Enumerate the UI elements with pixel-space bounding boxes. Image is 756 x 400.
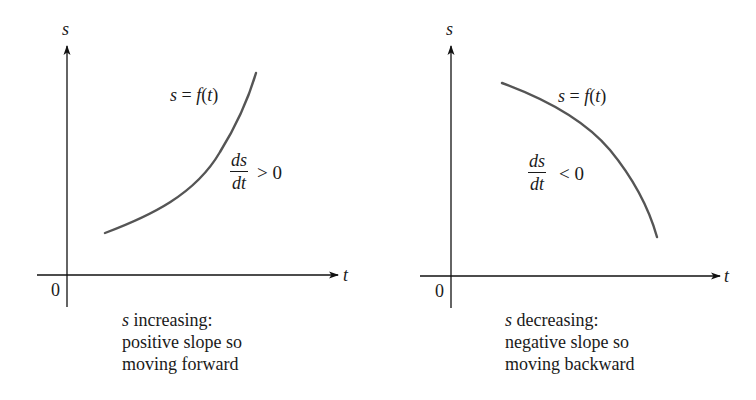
function-label-var: s — [558, 86, 565, 106]
derivative-fraction: ds dt — [230, 151, 248, 192]
caption-line-1: s increasing: — [122, 309, 242, 331]
function-label-eq: = — [177, 85, 196, 105]
caption-line-2: negative slope so — [505, 331, 634, 353]
derivative-denominator: dt — [530, 173, 544, 193]
derivative-numerator: ds — [528, 152, 546, 173]
function-label: s = f(t) — [170, 86, 218, 104]
function-label-var: s — [170, 85, 177, 105]
caption-var: s — [122, 310, 129, 330]
y-axis-label: s — [62, 20, 69, 38]
panel-decreasing: s t 0 s = f(t) ds dt < 0 s decreasing: n… — [378, 0, 756, 400]
caption-line-1-text: decreasing: — [512, 310, 598, 330]
x-axis-label: t — [343, 266, 348, 284]
origin-label: 0 — [51, 281, 60, 299]
caption-line-2: positive slope so — [122, 331, 242, 353]
caption-var: s — [505, 310, 512, 330]
caption-decreasing: s decreasing: negative slope so moving b… — [505, 309, 634, 375]
derivative-numerator: ds — [230, 151, 248, 172]
caption-line-3: moving forward — [122, 353, 242, 375]
caption-line-1-text: increasing: — [129, 310, 212, 330]
derivative-fraction: ds dt — [528, 152, 546, 193]
y-axis-label: s — [446, 20, 453, 38]
x-axis-label: t — [724, 267, 729, 285]
function-label-eq: = — [565, 86, 584, 106]
derivative-denominator: dt — [232, 172, 246, 192]
derivative-relation: < 0 — [559, 164, 584, 183]
caption-increasing: s increasing: positive slope so moving f… — [122, 309, 242, 375]
caption-line-3: moving backward — [505, 353, 634, 375]
derivative-relation: > 0 — [257, 163, 282, 182]
function-label: s = f(t) — [558, 87, 606, 105]
curve-decreasing — [502, 83, 657, 237]
origin-label: 0 — [435, 282, 444, 300]
caption-line-1: s decreasing: — [505, 309, 634, 331]
function-label-paren-close: ) — [600, 86, 606, 106]
panel-increasing: s t 0 s = f(t) ds dt > 0 s increasing: p… — [0, 0, 378, 400]
function-label-paren-close: ) — [212, 85, 218, 105]
